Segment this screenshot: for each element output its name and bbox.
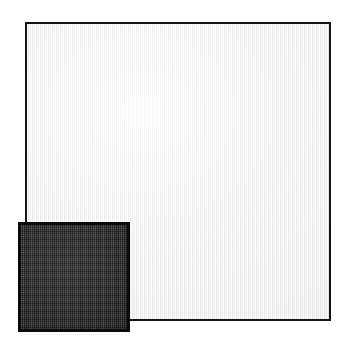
small-dark-fabric-swatch: small-dark-fabric-swatch xyxy=(18,222,130,332)
dark-swatch-label: small-dark-fabric-swatch xyxy=(21,225,22,226)
fabric-swatch-photo: large-light-fabric-swatch small-dark-fab… xyxy=(0,0,347,349)
light-swatch-label: large-light-fabric-swatch xyxy=(27,24,28,25)
